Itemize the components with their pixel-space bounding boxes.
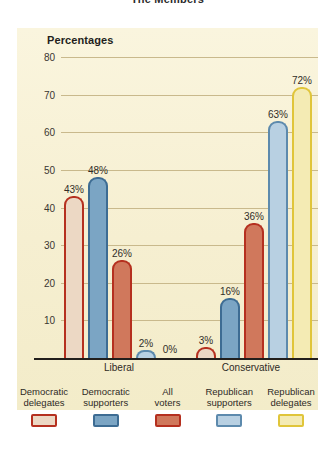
panel-heading: Percentages	[47, 34, 114, 46]
bar-value-label: 63%	[268, 109, 288, 120]
plot-area: 1020304050607080 43%48%26%2%0%3%16%36%63…	[61, 57, 318, 358]
legend-item[interactable]: Republicansupporters	[199, 386, 259, 446]
chart-legend: DemocraticdelegatesDemocraticsupportersA…	[0, 386, 335, 446]
bar-slot: 72%	[291, 57, 313, 358]
bar-value-label: 0%	[163, 344, 177, 355]
legend-item-label: Republicansupporters	[205, 386, 253, 408]
bar-slot: 2%	[135, 57, 157, 358]
bar-value-label: 26%	[112, 248, 132, 259]
bar-slot: 0%	[159, 57, 181, 358]
bar[interactable]: 3%	[196, 347, 216, 358]
bar-value-label: 3%	[199, 335, 213, 346]
bar[interactable]: 26%	[112, 260, 132, 358]
figure-title: The Members	[0, 0, 335, 5]
y-axis-tick-label: 50	[44, 164, 55, 175]
y-axis-tick-label: 80	[44, 52, 55, 63]
bar-value-label: 36%	[244, 211, 264, 222]
bar-value-label: 72%	[292, 75, 312, 86]
legend-swatch-icon	[155, 414, 181, 427]
bar[interactable]: 43%	[64, 196, 84, 358]
y-axis-tick-label: 30	[44, 240, 55, 251]
bar[interactable]: 2%	[136, 350, 156, 358]
bar-slot: 48%	[87, 57, 109, 358]
bar-slot: 16%	[219, 57, 241, 358]
y-axis-tick-label: 10	[44, 315, 55, 326]
y-axis-tick-label: 70	[44, 89, 55, 100]
bar[interactable]: 16%	[220, 298, 240, 358]
x-axis-baseline	[34, 358, 318, 360]
bar[interactable]: 48%	[88, 177, 108, 358]
legend-item-label: Democraticsupporters	[82, 386, 130, 408]
x-axis-category-label: Conservative	[222, 362, 280, 373]
legend-item-label: Allvoters	[155, 386, 181, 408]
y-axis-tick-label: 20	[44, 277, 55, 288]
bar-value-label: 48%	[88, 165, 108, 176]
legend-swatch-icon	[216, 414, 242, 427]
x-axis-category-label: Liberal	[104, 362, 134, 373]
legend-swatch-icon	[31, 414, 57, 427]
bar-group: 43%48%26%2%0%	[63, 57, 181, 358]
chart-figure: The Members Percentages 1020304050607080…	[0, 0, 335, 464]
legend-item-label: Democraticdelegates	[20, 386, 68, 408]
bar-slot: 63%	[267, 57, 289, 358]
bar-value-label: 43%	[64, 184, 84, 195]
legend-item-label: Republicandelegates	[267, 386, 315, 408]
legend-item[interactable]: Democraticdelegates	[14, 386, 74, 446]
bar-group: 3%16%36%63%72%	[195, 57, 313, 358]
chart-panel: Percentages 1020304050607080 43%48%26%2%…	[17, 28, 318, 410]
bar[interactable]: 36%	[244, 223, 264, 358]
bar-slot: 43%	[63, 57, 85, 358]
y-axis-tick-label: 40	[44, 202, 55, 213]
legend-item[interactable]: Allvoters	[138, 386, 198, 446]
bar-value-label: 16%	[220, 286, 240, 297]
legend-item[interactable]: Republicandelegates	[261, 386, 321, 446]
legend-swatch-icon	[93, 414, 119, 427]
bar-slot: 26%	[111, 57, 133, 358]
legend-item[interactable]: Democraticsupporters	[76, 386, 136, 446]
bar[interactable]: 63%	[268, 121, 288, 358]
bar-value-label: 2%	[139, 338, 153, 349]
bar-slot: 3%	[195, 57, 217, 358]
y-axis-tick-label: 60	[44, 127, 55, 138]
bar[interactable]: 72%	[292, 87, 312, 358]
legend-swatch-icon	[278, 414, 304, 427]
bar-slot: 36%	[243, 57, 265, 358]
